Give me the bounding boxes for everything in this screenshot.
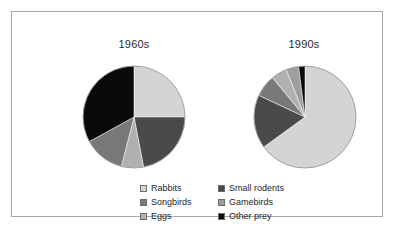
chart-title-right: 1990s	[260, 38, 348, 50]
legend-item-songbirds: Songbirds	[140, 195, 218, 209]
legend-row: Songbirds Gamebirds	[140, 195, 320, 209]
chart-title-left: 1960s	[90, 38, 178, 50]
legend-label-gamebirds: Gamebirds	[229, 197, 273, 207]
legend-swatch-rabbits	[140, 185, 147, 192]
legend-label-songbirds: Songbirds	[151, 197, 192, 207]
pie-1960s-svg	[82, 65, 186, 169]
pie-chart-1960s	[82, 65, 186, 169]
legend-label-other-prey: Other prey	[229, 211, 272, 221]
legend: Rabbits Small rodents Songbirds Gamebird…	[140, 181, 320, 223]
pie-slice-rabbits	[134, 66, 185, 117]
pie-chart-1990s	[253, 65, 357, 169]
legend-swatch-gamebirds	[218, 199, 225, 206]
legend-label-small-rodents: Small rodents	[229, 183, 284, 193]
legend-row: Eggs Other prey	[140, 209, 320, 223]
legend-row: Rabbits Small rodents	[140, 181, 320, 195]
figure-frame: 1960s 1990s Rabbits Small rodents	[11, 11, 383, 217]
pie-chart-figure: 1960s 1990s Rabbits Small rodents	[0, 0, 395, 230]
legend-item-eggs: Eggs	[140, 209, 218, 223]
legend-label-rabbits: Rabbits	[151, 183, 182, 193]
legend-item-gamebirds: Gamebirds	[218, 195, 318, 209]
legend-swatch-songbirds	[140, 199, 147, 206]
legend-swatch-other-prey	[218, 213, 225, 220]
pie-1990s-svg	[253, 65, 357, 169]
legend-swatch-eggs	[140, 213, 147, 220]
legend-swatch-small-rodents	[218, 185, 225, 192]
legend-item-other-prey: Other prey	[218, 209, 318, 223]
legend-item-small-rodents: Small rodents	[218, 181, 318, 195]
legend-label-eggs: Eggs	[151, 211, 172, 221]
legend-item-rabbits: Rabbits	[140, 181, 218, 195]
